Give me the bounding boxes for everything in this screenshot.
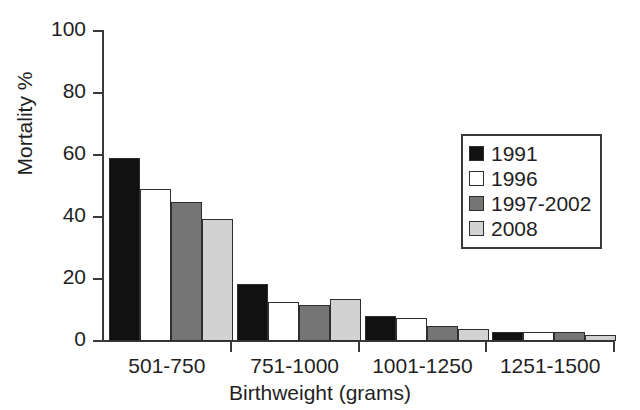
y-axis-tick-mark	[93, 216, 103, 218]
legend-swatch-icon	[469, 196, 484, 211]
x-axis-tick-mark	[613, 341, 615, 352]
y-axis-tick-label: 80	[63, 80, 86, 101]
y-axis-tick-label: 0	[74, 328, 86, 349]
y-axis-tick-mark	[93, 30, 103, 32]
x-axis-category-label: 1001-1250	[352, 354, 492, 377]
y-axis-tick: 80	[93, 92, 103, 94]
x-axis-category-label: 501-750	[97, 354, 237, 377]
y-axis-title: Mortality %	[13, 44, 36, 204]
bar	[109, 158, 140, 341]
x-axis-tick-mark	[485, 341, 487, 352]
legend-item-label: 1997-2002	[491, 193, 591, 214]
bar	[268, 302, 299, 341]
legend-swatch-icon	[469, 146, 484, 161]
legend-item-label: 1996	[491, 168, 538, 189]
bar	[202, 219, 233, 341]
x-axis-tick-mark	[230, 341, 232, 352]
bar	[140, 189, 171, 341]
bar	[237, 284, 268, 341]
y-axis-tick: 0	[93, 340, 103, 342]
y-axis-tick: 100	[93, 30, 103, 32]
y-axis-tick: 20	[93, 278, 103, 280]
bar	[299, 305, 330, 341]
y-axis-tick-mark	[93, 92, 103, 94]
bar	[458, 329, 489, 341]
bar	[171, 202, 202, 342]
x-axis-title: Birthweight (grams)	[0, 381, 640, 404]
legend: 199119961997-20022008	[461, 134, 602, 249]
y-axis-tick-mark	[93, 154, 103, 156]
bar	[427, 326, 458, 342]
legend-item-label: 2008	[491, 218, 538, 239]
x-axis-tick-mark	[358, 341, 360, 352]
legend-item: 1991	[469, 141, 591, 166]
y-axis-tick-label: 100	[51, 18, 86, 39]
legend-item: 1996	[469, 166, 591, 191]
legend-swatch-icon	[469, 221, 484, 236]
bar	[554, 332, 585, 341]
legend-swatch-icon	[469, 171, 484, 186]
bar	[585, 335, 616, 341]
legend-item-label: 1991	[491, 143, 538, 164]
y-axis-tick-mark	[93, 340, 103, 342]
y-axis-tick: 40	[93, 216, 103, 218]
y-axis-tick-label: 20	[63, 266, 86, 287]
bar	[365, 316, 396, 341]
mortality-by-birthweight-bar-chart: 020406080100 501-750751-10001001-1250125…	[0, 0, 640, 410]
legend-item: 1997-2002	[469, 191, 591, 216]
legend-item: 2008	[469, 216, 591, 241]
x-axis-category-label: 751-1000	[225, 354, 365, 377]
bar	[523, 332, 554, 341]
y-axis-tick: 60	[93, 154, 103, 156]
bar	[492, 332, 523, 341]
y-axis-tick-mark	[93, 278, 103, 280]
bar	[330, 299, 361, 341]
y-axis-tick-label: 40	[63, 204, 86, 225]
bar	[396, 318, 427, 341]
y-axis-tick-label: 60	[63, 142, 86, 163]
x-axis-category-label: 1251-1500	[480, 354, 620, 377]
